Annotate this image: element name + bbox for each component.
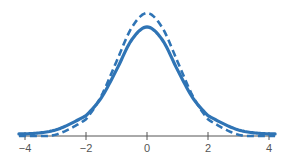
solid-curve bbox=[19, 27, 275, 134]
distribution-chart: −4−2024 bbox=[0, 0, 293, 162]
dashed-curve bbox=[19, 13, 275, 136]
x-tick-label: 0 bbox=[144, 142, 150, 154]
x-tick-label: −4 bbox=[19, 142, 32, 154]
x-tick-label: 4 bbox=[266, 142, 272, 154]
x-tick-label: −2 bbox=[80, 142, 93, 154]
x-tick-label: 2 bbox=[205, 142, 211, 154]
